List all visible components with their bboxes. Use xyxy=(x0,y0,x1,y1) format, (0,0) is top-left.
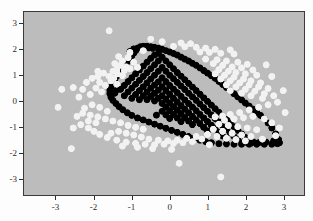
y-tick-label: 2 xyxy=(1,44,17,53)
y-tick-mark xyxy=(19,101,23,102)
plot-area xyxy=(23,11,305,196)
x-tick-label: 2 xyxy=(244,203,249,212)
x-tick-mark xyxy=(94,196,95,200)
x-tick-label: -2 xyxy=(90,203,98,212)
y-tick-label: 0 xyxy=(1,96,17,105)
x-tick-mark xyxy=(132,196,133,200)
x-tick-mark xyxy=(284,196,285,200)
x-tick-label: 0 xyxy=(167,203,172,212)
x-tick-label: -3 xyxy=(52,203,60,212)
y-tick-label: -1 xyxy=(1,122,17,131)
y-tick-mark xyxy=(19,75,23,76)
y-tick-mark xyxy=(19,23,23,24)
y-tick-mark xyxy=(19,127,23,128)
x-tick-mark xyxy=(208,196,209,200)
x-tick-mark xyxy=(170,196,171,200)
y-tick-label: -2 xyxy=(1,149,17,158)
scatter-plot-figure: -3-2-10123 -3-2-10123 xyxy=(0,0,313,221)
y-tick-mark xyxy=(19,49,23,50)
y-tick-mark xyxy=(19,179,23,180)
y-tick-label: -3 xyxy=(1,175,17,184)
x-tick-label: -1 xyxy=(128,203,136,212)
y-tick-label: 3 xyxy=(1,18,17,27)
y-tick-label: 1 xyxy=(1,70,17,79)
x-tick-label: 3 xyxy=(282,203,287,212)
scatter-points-canvas xyxy=(24,12,304,195)
x-tick-mark xyxy=(55,196,56,200)
y-tick-mark xyxy=(19,153,23,154)
x-tick-mark xyxy=(246,196,247,200)
x-tick-label: 1 xyxy=(206,203,211,212)
